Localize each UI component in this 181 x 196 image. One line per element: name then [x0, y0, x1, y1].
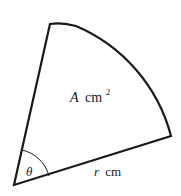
area-label: A cm 2 [69, 87, 110, 105]
radius-label: r cm [94, 164, 121, 179]
sector-diagram: θ A cm 2 r cm [0, 0, 181, 196]
angle-label: θ [26, 164, 33, 179]
